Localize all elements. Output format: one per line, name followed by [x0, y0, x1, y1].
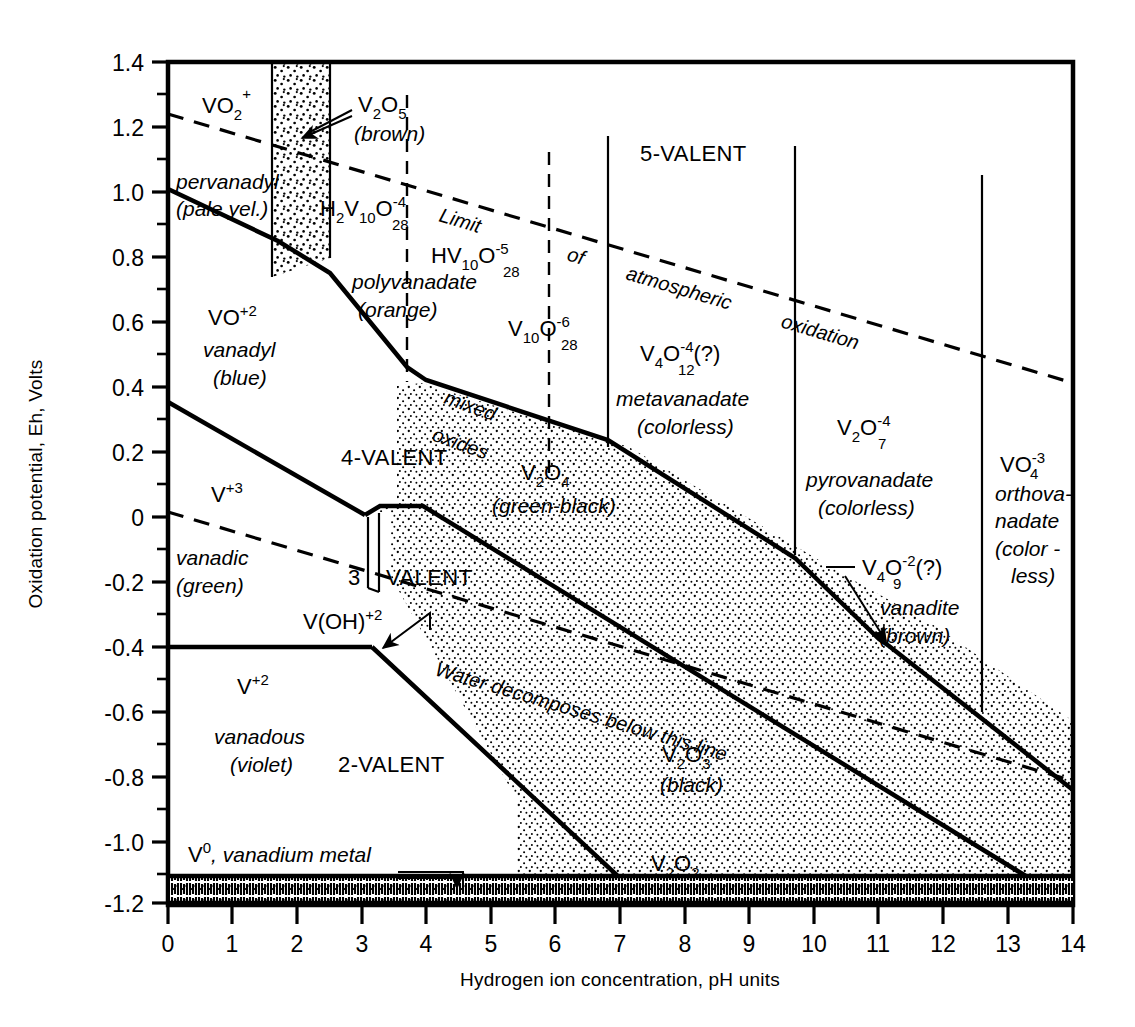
meta-sup: -4 — [680, 338, 693, 355]
x-tick-label: 4 — [420, 931, 433, 957]
x-tick-label: 1 — [226, 931, 239, 957]
field-label-orthovanadate: VO-3 4 orthova- nadate (color - less) — [995, 449, 1072, 587]
v2o3-v: V — [662, 742, 677, 767]
v2o5-v: V — [358, 92, 373, 117]
x-axis-title: Hydrogen ion concentration, pH units — [460, 969, 780, 990]
meta-sub-4: 4 — [655, 354, 663, 371]
v2o2-v: V — [651, 851, 666, 876]
field-label-vanadyl: VO+2 vanadyl (blue) — [203, 302, 277, 389]
y-tick-label: 0.4 — [112, 375, 144, 401]
label-3-valent: 3 VALENT — [348, 565, 472, 590]
annotation-atmospheric-limit: Limit of atmospheric oxidation — [437, 204, 862, 354]
h2v10-sub-28: 28 — [392, 216, 409, 233]
x-tick-label: 2 — [291, 931, 304, 957]
y-tick-label: 0 — [131, 505, 144, 531]
h2v10-sub-2: 2 — [336, 209, 344, 226]
x-tick-label: 0 — [162, 931, 175, 957]
hv10-o: O — [478, 243, 495, 268]
h2v10-h: H — [320, 196, 336, 221]
ortho-common-line1: orthova- — [995, 482, 1072, 505]
vanadic-common-name: vanadic — [176, 546, 249, 569]
vanadite-color: (brown) — [879, 624, 950, 647]
vanadous-common-name: vanadous — [214, 725, 306, 748]
y-tick-label: -1.0 — [104, 830, 144, 856]
svg-text:V+3: V+3 — [211, 479, 243, 507]
ortho-color-line2: less) — [1011, 564, 1055, 587]
hv10-sup: -5 — [495, 240, 508, 257]
pyrovanadate-color: (colorless) — [818, 496, 915, 519]
label-5-valent: 5-VALENT — [640, 141, 747, 166]
vanadous-superscript: +2 — [252, 671, 269, 688]
y-tick-label: -1.2 — [104, 891, 144, 917]
meta-qualifier: (?) — [694, 341, 721, 366]
field-label-vanadium-metal: V0, vanadium metal — [188, 839, 372, 867]
v2o5-color: (brown) — [354, 122, 425, 145]
atmos-word-oxidation: oxidation — [779, 310, 862, 354]
svg-text:HV10O-5: HV10O-5 — [431, 240, 509, 273]
x-tick-label: 14 — [1060, 931, 1086, 957]
y-tick-label: -0.4 — [104, 635, 144, 661]
svg-text:V2O4: V2O4 — [521, 460, 570, 490]
pyro-sub-2: 2 — [852, 428, 860, 445]
vanadous-color: (violet) — [230, 753, 293, 776]
v10-sub-28: 28 — [561, 336, 578, 353]
v10-sup: -6 — [557, 313, 570, 330]
field-label-vanadite: V4O-2(?) 9 vanadite (brown) — [862, 552, 959, 647]
svg-text:VO2+: VO2+ — [202, 85, 251, 123]
x-tick-label: 10 — [801, 931, 827, 957]
field-label-h2v10o28: H2V10O-4 28 — [320, 193, 409, 233]
label-4-valent: 4-VALENT — [341, 445, 448, 470]
y-tick-labels: 1.4 1.2 1.0 0.8 0.6 0.4 0.2 0 -0.2 -0.4 … — [104, 50, 144, 917]
field-label-pervanadyl: VO2+ pervanadyl (pale yel.) — [175, 85, 280, 220]
y-tick-label: 0.6 — [112, 310, 144, 336]
vmetal-superscript: 0 — [203, 839, 211, 856]
x-tick-label: 8 — [679, 931, 692, 957]
v2o3-sub-3: 3 — [702, 755, 710, 772]
field-label-pyrovanadate: V2O-4 7 pyrovanadate (colorless) — [805, 412, 933, 519]
v2o2-sub-2a: 2 — [666, 864, 674, 881]
ortho-sup: -3 — [1032, 449, 1045, 466]
h2v10-sup: -4 — [393, 193, 406, 210]
pervanadyl-color: (pale yel.) — [176, 197, 268, 220]
eh-ph-diagram-figure: Hydrogen ion concentration, pH units Oxi… — [0, 0, 1135, 1027]
v2o4-v: V — [521, 460, 536, 485]
svg-text:V4O-2(?): V4O-2(?) — [862, 552, 942, 585]
v2o2-sub-2b: 2 — [691, 864, 699, 881]
vanadic-superscript: +3 — [226, 479, 243, 496]
vanadic-color: (green) — [176, 574, 244, 597]
y-tick-label: 1.4 — [112, 50, 144, 76]
label-3-valent-digit: 3 — [348, 565, 361, 590]
y-tick-label: -0.8 — [104, 765, 144, 791]
y-tick-label: -0.6 — [104, 700, 144, 726]
pervanadyl-subscript: 2 — [234, 106, 242, 123]
ortho-color-line1: (color - — [995, 537, 1060, 560]
y-tick-label: -0.2 — [104, 570, 144, 596]
y-tick-label: 0.2 — [112, 440, 144, 466]
x-tick-label: 13 — [995, 931, 1021, 957]
vanadite-sub-4: 4 — [877, 568, 885, 585]
vanadite-v: V — [862, 555, 877, 580]
pervanadyl-common-name: pervanadyl — [175, 170, 280, 193]
x-tick-label: 12 — [930, 931, 956, 957]
v2o3-sub-2: 2 — [677, 755, 685, 772]
x-tick-label: 7 — [614, 931, 627, 957]
svg-text:VO-3: VO-3 — [1000, 449, 1045, 477]
field-label-vanadous: V+2 vanadous (violet) — [214, 671, 306, 776]
hv10-sub-28: 28 — [503, 263, 520, 280]
h2v10-sub-10: 10 — [359, 209, 376, 226]
y-tick-label: 1.2 — [112, 115, 144, 141]
vanadic-formula: V — [211, 482, 226, 507]
field-label-v2o4: V2O4 (green-black) — [492, 460, 616, 517]
label-2-valent: 2-VALENT — [338, 752, 445, 777]
pyro-v: V — [837, 415, 852, 440]
v2o3-o: O — [685, 742, 702, 767]
h2v10-o: O — [376, 196, 393, 221]
field-label-v10o28: V10O-6 28 — [508, 313, 578, 353]
field-label-vanadic: V+3 vanadic (green) — [176, 479, 249, 597]
mixed-oxides-line1: mixed — [442, 386, 500, 425]
svg-text:V2O5: V2O5 — [358, 92, 407, 122]
vanadyl-common-name: vanadyl — [203, 338, 277, 361]
v2o4-color: (green-black) — [492, 494, 616, 517]
v2o4-o: O — [544, 460, 561, 485]
pervanadyl-superscript: + — [242, 85, 251, 102]
